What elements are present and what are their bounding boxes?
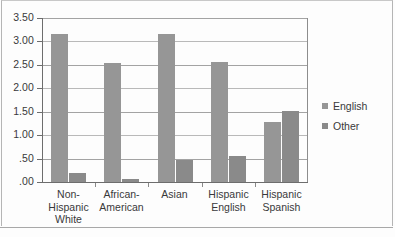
y-axis-label: 1.50 xyxy=(13,106,34,117)
x-axis-tick xyxy=(202,183,203,187)
chart-legend: EnglishOther xyxy=(322,98,367,138)
x-axis-tick xyxy=(148,183,149,187)
bar-english-0[interactable] xyxy=(51,34,68,182)
x-axis-category-label: Asian xyxy=(148,188,201,201)
bar-other-1[interactable] xyxy=(122,179,139,182)
bar-english-4[interactable] xyxy=(264,122,281,182)
bars-layer xyxy=(42,18,308,182)
legend-label: English xyxy=(333,101,367,112)
bar-other-0[interactable] xyxy=(69,173,86,182)
y-axis-label: 2.50 xyxy=(13,59,34,70)
y-axis-label: .00 xyxy=(19,176,34,187)
legend-item-english[interactable]: English xyxy=(322,98,367,114)
legend-item-other[interactable]: Other xyxy=(322,118,367,134)
bar-other-2[interactable] xyxy=(176,160,193,182)
y-axis-label: .50 xyxy=(19,153,34,164)
x-axis-category-label: Hispanic English xyxy=(202,188,255,213)
bar-english-1[interactable] xyxy=(104,63,121,182)
bar-other-4[interactable] xyxy=(282,111,299,182)
x-axis-tick xyxy=(255,183,256,187)
legend-label: Other xyxy=(333,121,359,132)
x-axis-category-label: Hispanic Spanish xyxy=(255,188,308,213)
y-axis-label: 2.00 xyxy=(13,82,34,93)
x-axis-category-label: African- American xyxy=(95,188,148,213)
bar-other-3[interactable] xyxy=(229,156,246,182)
chart-figure: 3.503.002.502.001.501.00.50.00 Non- Hisp… xyxy=(0,0,395,237)
x-axis-tick xyxy=(95,183,96,187)
bar-english-2[interactable] xyxy=(158,34,175,182)
x-axis-category-label: Non- Hispanic White xyxy=(42,188,95,226)
y-axis-label: 1.00 xyxy=(13,129,34,140)
plot-axis-bottom xyxy=(42,182,308,183)
legend-swatch-icon xyxy=(322,103,328,109)
y-axis-label: 3.50 xyxy=(13,12,34,23)
y-axis-label: 3.00 xyxy=(13,35,34,46)
bar-english-3[interactable] xyxy=(211,62,228,182)
legend-swatch-icon xyxy=(322,123,328,129)
